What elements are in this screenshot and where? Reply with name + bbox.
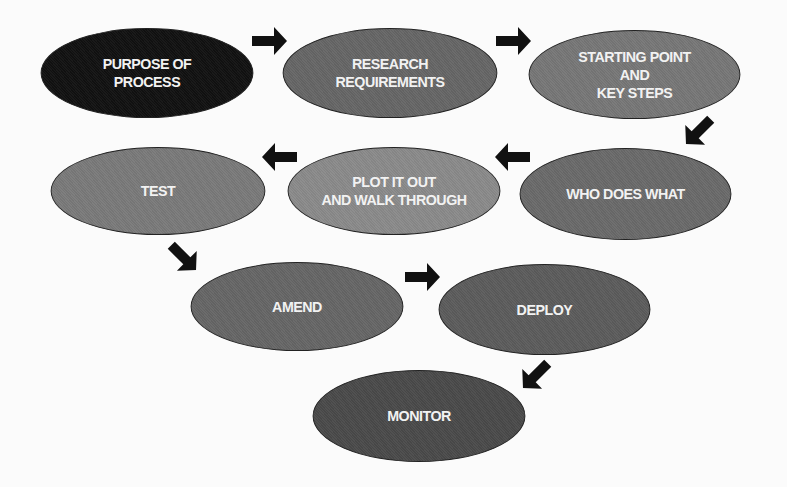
arrow-right-icon (252, 27, 288, 55)
node-plot-it-out: PLOT IT OUT AND WALK THROUGH (288, 147, 501, 235)
node-starting-point-key-steps: STARTING POINT AND KEY STEPS (529, 30, 741, 119)
arrow-down-left-icon (517, 358, 553, 394)
arrow-left-icon (494, 143, 530, 171)
arrow-left-icon (261, 143, 297, 171)
node-deploy: DEPLOY (439, 264, 651, 355)
node-monitor: MONITOR (313, 370, 526, 462)
process-flow-diagram: PURPOSE OF PROCESS RESEARCH REQUIREMENTS… (0, 0, 787, 487)
arrow-right-icon (405, 263, 441, 291)
node-test: TEST (51, 147, 266, 235)
arrow-down-left-icon (680, 114, 716, 150)
node-who-does-what: WHO DOES WHAT (520, 148, 732, 240)
node-amend: AMEND (191, 262, 404, 351)
arrow-down-right-icon (166, 240, 202, 276)
node-purpose-of-process: PURPOSE OF PROCESS (41, 28, 254, 118)
arrow-right-icon (496, 27, 532, 55)
node-research-requirements: RESEARCH REQUIREMENTS (283, 28, 498, 118)
